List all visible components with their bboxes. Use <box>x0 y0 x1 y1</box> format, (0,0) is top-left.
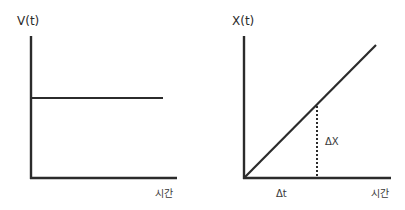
position-x-label: 시간 <box>371 188 389 199</box>
diagram-canvas: V(t) 시간 X(t) ΔX Δt 시간 <box>0 0 405 210</box>
velocity-y-label: V(t) <box>17 14 39 28</box>
velocity-x-label: 시간 <box>155 188 173 199</box>
position-y-label: X(t) <box>232 14 254 28</box>
delta-x-label: ΔX <box>325 136 339 147</box>
delta-t-label: Δt <box>276 188 287 199</box>
position-linear-line <box>244 45 376 178</box>
velocity-graph: V(t) 시간 <box>17 14 177 199</box>
position-graph: X(t) ΔX Δt 시간 <box>232 14 391 199</box>
